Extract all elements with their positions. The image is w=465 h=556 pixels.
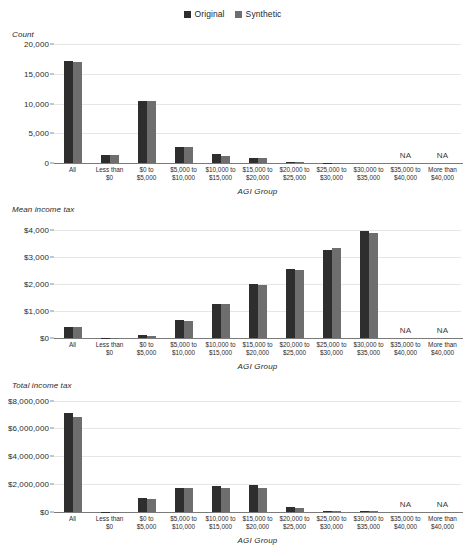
x-tick-label: More than $40,000 [424, 341, 461, 357]
bar-original[interactable] [212, 154, 221, 163]
bar-synthetic[interactable] [332, 511, 341, 512]
x-tick-label: $25,000 to $30,000 [313, 166, 350, 182]
x-tick-label: Less than $0 [91, 515, 128, 531]
bar-original[interactable] [249, 284, 258, 338]
bar-group [165, 44, 202, 163]
bar-group [165, 219, 202, 338]
bar-synthetic[interactable] [221, 488, 230, 512]
bar-original[interactable] [249, 158, 258, 163]
x-tick-label: $25,000 to $30,000 [313, 341, 350, 357]
bar-group [54, 219, 91, 338]
bar-synthetic[interactable] [184, 321, 193, 338]
bar-synthetic[interactable] [147, 499, 156, 512]
y-tick-label: $3,000 [24, 252, 49, 261]
x-tick-label: $20,000 to $25,000 [276, 166, 313, 182]
x-tick-label: $30,000 to $35,000 [350, 166, 387, 182]
bar-original[interactable] [249, 485, 258, 512]
bar-synthetic[interactable] [258, 158, 267, 163]
bar-group: NA [387, 219, 424, 338]
bar-group [276, 219, 313, 338]
bar-synthetic[interactable] [332, 248, 341, 338]
na-label: NA [424, 500, 461, 509]
bar-group [91, 219, 128, 338]
bar-original[interactable] [286, 507, 295, 512]
bar-synthetic[interactable] [369, 511, 378, 512]
bar-original[interactable] [360, 231, 369, 338]
bar-groups: NANA [54, 44, 461, 163]
bar-original[interactable] [286, 269, 295, 338]
bar-synthetic[interactable] [184, 147, 193, 163]
x-tick-label: All [54, 341, 91, 357]
square-swatch-icon [184, 11, 191, 18]
bar-synthetic[interactable] [258, 488, 267, 513]
x-tick-label: $0 to $5,000 [128, 341, 165, 357]
x-tick-label: All [54, 515, 91, 531]
y-tick-label: 0 [44, 159, 49, 168]
bar-synthetic[interactable] [73, 417, 82, 512]
y-tick-label: 5,000 [28, 129, 49, 138]
bar-group [128, 44, 165, 163]
bar-original[interactable] [175, 320, 184, 338]
bar-synthetic[interactable] [73, 327, 82, 338]
bar-group [128, 395, 165, 512]
bar-group [239, 219, 276, 338]
bar-group: NA [387, 395, 424, 512]
x-axis-title: AGI Group [54, 187, 461, 196]
bar-synthetic[interactable] [221, 156, 230, 163]
bar-group [350, 44, 387, 163]
bar-group [276, 44, 313, 163]
bar-original[interactable] [175, 147, 184, 163]
x-tick-label: More than $40,000 [424, 515, 461, 531]
x-tick-label: $5,000 to $10,000 [165, 341, 202, 357]
bar-original[interactable] [212, 304, 221, 338]
legend-entry-synthetic: Synthetic [235, 9, 282, 19]
bar-synthetic[interactable] [295, 508, 304, 512]
bar-group: NA [424, 44, 461, 163]
bar-group: NA [424, 395, 461, 512]
y-tick-label: $6,000,000 [8, 424, 49, 433]
bar-synthetic[interactable] [147, 336, 156, 338]
chart-page: Original Synthetic Count 05,00010,00015,… [0, 0, 465, 556]
bar-group: NA [387, 44, 424, 163]
bar-group [350, 395, 387, 512]
bar-synthetic[interactable] [295, 162, 304, 163]
x-tick-label: $10,000 to $15,000 [202, 515, 239, 531]
bar-original[interactable] [175, 488, 184, 512]
x-tick-label: $10,000 to $15,000 [202, 341, 239, 357]
bar-synthetic[interactable] [184, 488, 193, 512]
bar-synthetic[interactable] [73, 62, 82, 163]
na-label: NA [387, 500, 424, 509]
bar-groups: NANA [54, 395, 461, 512]
bar-original[interactable] [64, 327, 73, 338]
x-tick-label: $0 to $5,000 [128, 166, 165, 182]
bar-original[interactable] [323, 511, 332, 512]
bar-group [202, 44, 239, 163]
bar-group [239, 395, 276, 512]
bar-original[interactable] [212, 486, 221, 512]
bar-original[interactable] [138, 101, 147, 163]
plot-area-count: 05,00010,00015,00020,000NANA [54, 44, 461, 163]
x-tick-label: $5,000 to $10,000 [165, 515, 202, 531]
x-tick-labels: AllLess than $0$0 to $5,000$5,000 to $10… [54, 166, 461, 182]
bar-original[interactable] [138, 498, 147, 512]
bar-group [91, 395, 128, 512]
bar-original[interactable] [101, 155, 110, 163]
plot-area-mean-income-tax: $0$1,000$2,000$3,000$4,000NANA [54, 219, 461, 338]
y-tick-label: 15,000 [24, 69, 49, 78]
bar-original[interactable] [323, 250, 332, 338]
bar-synthetic[interactable] [369, 233, 378, 338]
chart-panel-mean-income-tax: Mean income tax $0$1,000$2,000$3,000$4,0… [0, 205, 465, 381]
bar-original[interactable] [64, 413, 73, 512]
x-tick-label: $15,000 to $20,000 [239, 166, 276, 182]
bar-synthetic[interactable] [147, 101, 156, 163]
bar-synthetic[interactable] [295, 270, 304, 338]
bar-original[interactable] [138, 335, 147, 338]
bar-original[interactable] [286, 162, 295, 163]
bar-original[interactable] [64, 61, 73, 163]
bar-synthetic[interactable] [110, 155, 119, 163]
bar-synthetic[interactable] [221, 304, 230, 338]
bar-synthetic[interactable] [258, 285, 267, 338]
bar-original[interactable] [360, 511, 369, 512]
bar-group [313, 44, 350, 163]
bar-group [54, 395, 91, 512]
